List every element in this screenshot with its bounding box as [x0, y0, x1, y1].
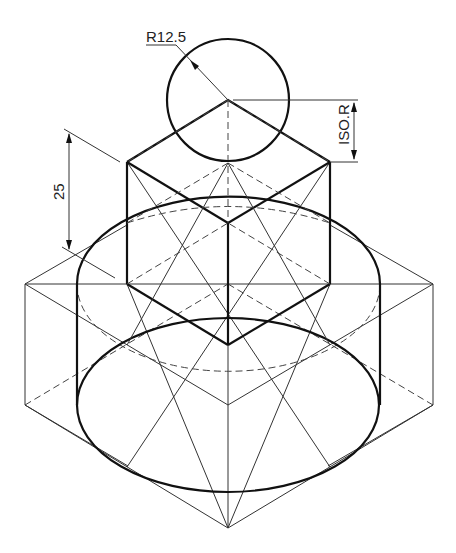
height-label: 25 [50, 183, 67, 200]
isometric-drawing: R12.5 ISO.R 25 [0, 0, 456, 553]
iso-radius-dimension: ISO.R [233, 100, 358, 162]
radius-dimension: R12.5 [146, 28, 228, 100]
radius-label: R12.5 [146, 28, 186, 45]
iso-radius-label: ISO.R [335, 104, 352, 145]
cube [127, 100, 330, 345]
